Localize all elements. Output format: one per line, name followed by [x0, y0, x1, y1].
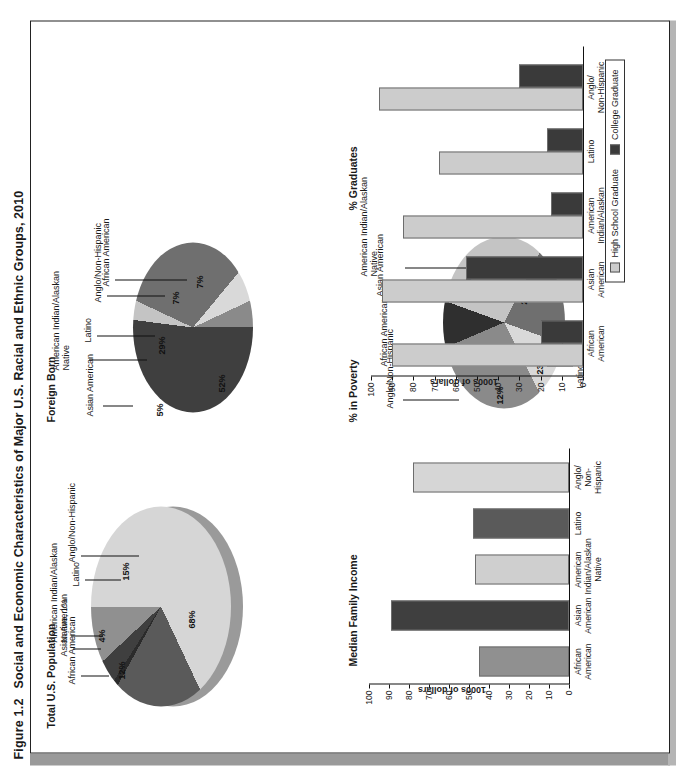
leader-line-american-indian-fb [89, 359, 147, 360]
y-tick-label: 100 [366, 382, 376, 406]
y-tick [371, 376, 372, 380]
figure-title-bar: Figure 1.2 Social and Economic Character… [8, 14, 30, 759]
pie-slices-total-population [91, 506, 231, 706]
y-tick-label: 30 [504, 690, 514, 714]
pie-label-latino: Latino [71, 561, 81, 586]
bar-median-income [479, 646, 569, 676]
pie-value-asian-american-fb: 52% [217, 374, 227, 392]
category-label-median-income: Latino [574, 498, 584, 548]
y-axis-title-median-income: 1000s of dollars [407, 684, 497, 694]
legend-swatch-college [610, 144, 620, 154]
pie-label-african-american-fb: African American [101, 218, 111, 286]
leader-line-asian-american-fb [103, 405, 133, 406]
bar-median-income [473, 508, 569, 538]
category-label-graduates: Anglo/Non-Hispanic [587, 50, 607, 124]
leader-line-asian-american [73, 648, 101, 649]
y-tick-label: 0 [564, 690, 574, 714]
pie-foreign-born: 52% 5% 29% 7% 7% [133, 242, 253, 412]
category-label-graduates: AsianAmerican [587, 242, 607, 316]
pie-value-african-american: 12% [117, 661, 127, 679]
legend-label-college: College Graduate [610, 69, 620, 140]
y-tick [569, 684, 570, 688]
bar-graduates [403, 215, 583, 238]
y-tick-label: 10 [544, 690, 554, 714]
y-tick [562, 376, 563, 380]
leader-line-anglo [81, 555, 139, 556]
y-tick-label: 20 [524, 690, 534, 714]
pie-value-african-american-fb: 7% [195, 275, 205, 288]
y-tick-label: 90 [387, 382, 397, 406]
panel-title-median-income: Median Family Income [347, 554, 359, 666]
y-tick-label: 20 [536, 382, 546, 406]
y-tick [541, 376, 542, 380]
leader-line-latino [85, 579, 121, 580]
y-tick [369, 684, 370, 688]
pie-value-anglo: 68% [187, 610, 197, 628]
y-tick [413, 376, 414, 380]
y-tick-label: 10 [557, 382, 567, 406]
bar-graduates [466, 256, 583, 279]
bar-graduates [551, 192, 583, 215]
bar-graduates [439, 151, 583, 174]
y-tick [583, 376, 584, 380]
panel-median-family-income: Median Family Income 0102030405060708090… [347, 428, 647, 728]
leader-line-latino-fb [97, 335, 155, 336]
legend-swatch-high-school [610, 262, 620, 272]
y-axis-title-graduates: 1000s of dollars [419, 376, 509, 386]
pie-label-american-indian-fb: American Indian/Alaskan Native [51, 266, 72, 370]
panel-total-us-population: Total U.S. Population 68% 15% 4% 12% Afr… [45, 428, 345, 728]
category-label-graduates: Latino [587, 114, 597, 188]
y-tick-label: 100 [364, 690, 374, 714]
pie-value-latino: 15% [121, 562, 131, 580]
panel-foreign-born: Foreign Born 52% 5% 29% 7% 7% Asian Amer… [45, 172, 345, 422]
bar-median-income [413, 462, 569, 492]
y-tick-label: 90 [384, 690, 394, 714]
bar-graduates [379, 87, 583, 110]
legend-item-high-school: High School Graduate [610, 168, 620, 272]
pie-label-asian-american-fb: Asian American [85, 353, 95, 416]
y-tick [529, 684, 530, 688]
category-label-median-income: AsianAmerican [574, 590, 594, 640]
bar-median-income [391, 600, 569, 630]
frame-shadow-left [30, 753, 670, 765]
figure-number: Figure 1.2 [12, 698, 26, 759]
panel-title-graduates: % Graduates [347, 146, 359, 210]
y-tick [519, 376, 520, 380]
pie-total-population: 68% 15% 4% 12% [91, 506, 241, 706]
bar-graduates [541, 320, 583, 343]
y-tick-label: 30 [514, 382, 524, 406]
x-axis-median-income [569, 448, 570, 684]
pie-slices-foreign-born [133, 242, 253, 412]
y-tick [392, 376, 393, 380]
pie-value-latino-fb: 29% [157, 336, 167, 354]
category-label-median-income: AmericanIndian/AlaskanNative [574, 544, 604, 594]
pie-label-latino-fb: Latino [83, 317, 93, 342]
leader-line-anglo-fb [107, 295, 165, 296]
legend-item-college: College Graduate [610, 69, 620, 155]
bar-graduates [392, 343, 583, 366]
page-title: Social and Economic Characteristics of M… [12, 190, 26, 688]
panel-percent-graduates: % Graduates 0102030405060708090100 1000s… [347, 10, 657, 400]
category-label-graduates: AfricanAmerican [587, 306, 607, 380]
pie-value-anglo-fb: 7% [171, 291, 181, 304]
legend-label-high-school: High School Graduate [610, 168, 620, 257]
y-tick [509, 684, 510, 688]
bar-graduates [547, 128, 583, 151]
pie-label-anglo: Anglo/Non-Hispanic [67, 482, 77, 562]
figure-frame: Total U.S. Population 68% 15% 4% 12% Afr… [30, 20, 670, 753]
bar-graduates [382, 279, 583, 302]
y-tick-label: 80 [408, 382, 418, 406]
y-tick [389, 684, 390, 688]
bar-median-income [475, 554, 569, 584]
category-label-median-income: AfricanAmerican [574, 636, 594, 686]
leader-line-african-american-fb [115, 279, 187, 280]
y-tick-label: 0 [578, 382, 588, 406]
pie-value-american-indian-fb: 5% [155, 403, 165, 416]
bar-graduates [519, 64, 583, 87]
category-label-median-income: Anglo/Non-Hispanic [574, 452, 604, 502]
leader-line-african-american [81, 675, 109, 676]
x-axis-graduates [583, 46, 584, 376]
figure-page: Figure 1.2 Social and Economic Character… [0, 0, 676, 773]
y-tick [549, 684, 550, 688]
legend-graduates: High School Graduate College Graduate [605, 59, 625, 282]
